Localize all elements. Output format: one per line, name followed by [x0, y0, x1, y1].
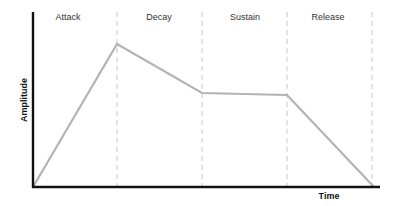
- y-axis-label: Amplitude: [19, 78, 29, 122]
- phase-label-sustain: Sustain: [230, 12, 260, 22]
- phase-dividers: [117, 12, 372, 187]
- envelope-line: [33, 44, 374, 187]
- adsr-diagram: Attack Decay Sustain Release Time Amplit…: [0, 0, 397, 206]
- phase-label-decay: Decay: [146, 12, 172, 22]
- phase-label-release: Release: [311, 12, 344, 22]
- phase-label-attack: Attack: [55, 12, 81, 22]
- x-axis-label: Time: [319, 191, 340, 201]
